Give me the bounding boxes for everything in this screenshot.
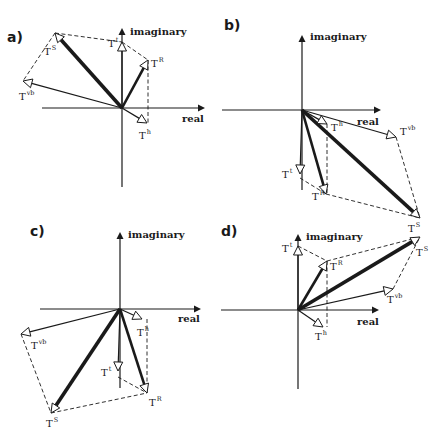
real-axis-arrow-icon [374, 107, 381, 114]
vector-label: Tvb [31, 338, 47, 351]
open-arrowhead-icon [386, 130, 396, 139]
panel-letter: b) [224, 17, 240, 33]
vector-label: Tt [108, 36, 119, 49]
vector-label: Tvb [19, 89, 35, 102]
imaginary-axis-arrow-icon [119, 28, 126, 35]
vector-shaft [61, 40, 122, 108]
imaginary-axis-arrow-icon [299, 35, 306, 42]
panel-a: imaginaryreala)TSTRTtTvbTh [7, 26, 205, 187]
real-axis-arrow-icon [194, 306, 201, 313]
panel-d: imaginaryreald)TSTRTtTvbTh [221, 223, 428, 389]
construction-line [51, 393, 147, 413]
panel-b: imaginaryrealb)TSTRTtTvbTh [222, 17, 420, 234]
vector-label: TR [330, 259, 344, 272]
vector-label: Th [139, 128, 151, 141]
panel-letter: d) [221, 223, 237, 239]
real-axis-label: real [357, 316, 379, 327]
construction-line [23, 33, 55, 81]
real-axis-arrow-icon [198, 105, 205, 112]
vector-label: TS [44, 44, 56, 57]
imaginary-axis-label: imaginary [130, 26, 188, 37]
vector-label: TS [46, 416, 58, 429]
vector-label: TR [312, 189, 326, 202]
panel-letter: c) [30, 223, 45, 239]
vector-T-vb: Tvb [298, 287, 403, 310]
imaginary-axis-label: imaginary [306, 231, 364, 242]
vector-T-S: TS [298, 237, 428, 310]
vector-label: Tt [282, 241, 293, 254]
vector-label: TR [149, 395, 163, 408]
vector-label: Th [137, 325, 149, 338]
vector-shaft [298, 310, 316, 322]
vector-T-t: Tt [282, 241, 303, 310]
real-axis-label: real [178, 313, 200, 324]
vector-label: Tt [101, 365, 112, 378]
vector-shaft [56, 309, 120, 406]
vector-label: TS [408, 221, 420, 234]
panel-letter: a) [7, 29, 23, 45]
vector-label: TS [416, 245, 428, 258]
imaginary-axis-arrow-icon [295, 234, 302, 241]
vector-T-vb: Tvb [19, 79, 122, 108]
open-arrowhead-icon [410, 237, 420, 245]
real-axis-label: real [182, 113, 204, 124]
open-arrowhead-icon [132, 311, 142, 319]
vector-label: Tt [282, 167, 293, 180]
vector-T-h: Th [122, 108, 151, 141]
imaginary-axis-label: imaginary [310, 31, 368, 42]
vector-shaft [120, 309, 144, 384]
open-arrowhead-icon [140, 60, 148, 70]
vector-T-R: TR [122, 56, 165, 108]
open-arrowhead-icon [114, 362, 123, 371]
real-axis-arrow-icon [372, 307, 379, 314]
open-arrowhead-icon [23, 79, 33, 88]
vector-T-R: TR [120, 309, 163, 408]
open-arrowhead-icon [137, 115, 147, 123]
open-arrowhead-icon [296, 165, 305, 174]
real-axis-label: real [357, 116, 379, 127]
vector-label: Th [331, 120, 343, 133]
vector-T-h: Th [298, 310, 327, 342]
construction-line [298, 246, 327, 261]
vector-shaft [122, 108, 139, 118]
phasor-figure: imaginaryreala)TSTRTtTvbThimaginaryrealb… [0, 0, 445, 436]
vector-T-R: TR [298, 259, 344, 310]
vector-label: Tvb [387, 292, 403, 305]
vector-label: Th [315, 329, 327, 342]
open-arrowhead-icon [118, 42, 127, 51]
imaginary-axis-arrow-icon [117, 232, 124, 239]
vector-T-t: Tt [282, 110, 305, 180]
open-arrowhead-icon [21, 327, 31, 336]
imaginary-axis-label: imaginary [128, 229, 186, 240]
vector-label: TR [151, 56, 165, 69]
open-arrowhead-icon [319, 261, 327, 271]
panel-c: imaginaryrealc)TSTRTtTvbTh [21, 223, 201, 429]
vector-label: Tvb [400, 124, 416, 137]
phasor-diagram-canvas: imaginaryreala)TSTRTtTvbThimaginaryrealb… [0, 0, 445, 436]
vector-shaft [122, 68, 144, 108]
vector-shaft [32, 83, 122, 108]
open-arrowhead-icon [313, 318, 323, 327]
